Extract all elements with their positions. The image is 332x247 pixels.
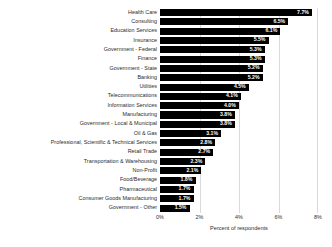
x-tick-label: 0% (156, 215, 164, 220)
bar-track: 6.5% (160, 18, 318, 25)
bar-value-label: 2.7% (198, 150, 210, 155)
category-label: Pharmaceutical (120, 187, 157, 192)
category-label: Health Care (128, 10, 157, 15)
bar-row: Government - State5.2% (0, 64, 332, 73)
category-label: Non-Profit (133, 168, 157, 173)
bar-value-label: 1.8% (181, 178, 193, 183)
bar-track: 3.1% (160, 130, 318, 137)
bar-track: 4.0% (160, 102, 318, 109)
category-label: Manufacturing (123, 112, 157, 117)
bar-value-label: 4.1% (226, 94, 238, 99)
bar-value-label: 6.5% (273, 19, 285, 24)
bar-value-label: 4.0% (224, 103, 236, 108)
bar-row: Information Services4.0% (0, 101, 332, 110)
category-label: Education Services (110, 29, 157, 34)
bar-value-label: 2.8% (200, 140, 212, 145)
bar-row: Telecommunications4.1% (0, 92, 332, 101)
bar-track: 4.5% (160, 84, 318, 91)
category-label: Government - State (110, 66, 157, 71)
bar-row: Health Care7.7% (0, 8, 332, 17)
bar-value-label: 1.5% (175, 206, 187, 211)
bar-rows: Health Care7.7%Consulting6.5%Education S… (0, 8, 332, 213)
bar-row: Consulting6.5% (0, 17, 332, 26)
bar-row: Government - Local & Municipal3.8% (0, 120, 332, 129)
category-label: Insurance (133, 38, 157, 43)
bar-track: 3.8% (160, 111, 318, 118)
bar-track: 1.7% (160, 186, 318, 193)
bar-track: 2.3% (160, 158, 318, 165)
bar-row: Finance5.3% (0, 55, 332, 64)
category-label: Utilities (139, 84, 157, 89)
category-label: Food/Beverage (120, 178, 157, 183)
bar-row: Government - Other1.5% (0, 204, 332, 213)
bar-value-label: 5.2% (248, 75, 260, 80)
bar-track: 5.5% (160, 37, 318, 44)
bar-value-label: 3.8% (220, 122, 232, 127)
category-label: Banking (137, 75, 157, 80)
bar-chart: Health Care7.7%Consulting6.5%Education S… (0, 0, 332, 247)
bar-track: 5.3% (160, 46, 318, 53)
bar-row: Government - Federal5.3% (0, 45, 332, 54)
x-axis: 0%2%4%6%8% (160, 213, 318, 225)
bar-track: 6.1% (160, 28, 318, 35)
bar-value-label: 2.1% (186, 168, 198, 173)
x-axis-title: Percent of respondents (160, 226, 318, 232)
category-label: Finance (138, 57, 157, 62)
bar-value-label: 3.8% (220, 112, 232, 117)
bar (160, 28, 280, 35)
x-tick-label: 8% (314, 215, 322, 220)
bar-row: Retail Trade2.7% (0, 148, 332, 157)
bar-row: Education Services6.1% (0, 27, 332, 36)
bar-value-label: 4.5% (234, 84, 246, 89)
bar-value-label: 5.3% (250, 47, 262, 52)
bar-row: Consumer Goods Manufacturing1.7% (0, 194, 332, 203)
bar-track: 2.8% (160, 139, 318, 146)
bar-value-label: 3.1% (206, 131, 218, 136)
category-label: Consumer Goods Manufacturing (79, 196, 157, 201)
bar-value-label: 5.3% (250, 57, 262, 62)
bar-row: Pharmaceutical1.7% (0, 185, 332, 194)
bar (160, 18, 288, 25)
bar-track: 5.2% (160, 65, 318, 72)
bar-track: 1.8% (160, 177, 318, 184)
bar-value-label: 1.7% (179, 196, 191, 201)
bar-row: Manufacturing3.8% (0, 110, 332, 119)
bar (160, 9, 312, 16)
bar-track: 1.7% (160, 195, 318, 202)
bar-track: 5.2% (160, 74, 318, 81)
bar-value-label: 6.1% (265, 29, 277, 34)
category-label: Transportation & Warehousing (84, 159, 157, 164)
bar-track: 4.1% (160, 93, 318, 100)
bar-row: Food/Beverage1.8% (0, 176, 332, 185)
bar-value-label: 5.5% (254, 38, 266, 43)
category-label: Oil & Gas (134, 131, 157, 136)
bar-value-label: 2.3% (190, 159, 202, 164)
bar-track: 2.1% (160, 167, 318, 174)
bar-row: Utilities4.5% (0, 83, 332, 92)
bar-row: Non-Profit2.1% (0, 166, 332, 175)
x-tick-label: 6% (275, 215, 283, 220)
x-tick-label: 2% (196, 215, 204, 220)
category-label: Government - Other (109, 206, 157, 211)
bar-track: 7.7% (160, 9, 318, 16)
category-label: Professional, Scientific & Technical Ser… (51, 140, 157, 145)
category-label: Retail Trade (128, 150, 157, 155)
bar-row: Insurance5.5% (0, 36, 332, 45)
bar-track: 5.3% (160, 56, 318, 63)
category-label: Government - Federal (104, 47, 157, 52)
bar-track: 1.5% (160, 205, 318, 212)
bar-track: 3.8% (160, 121, 318, 128)
bar-value-label: 7.7% (297, 10, 309, 15)
category-label: Government - Local & Municipal (80, 122, 157, 127)
bar-row: Banking5.2% (0, 73, 332, 82)
category-label: Consulting (131, 19, 157, 24)
bar (160, 37, 269, 44)
bar-track: 2.7% (160, 149, 318, 156)
bar-row: Oil & Gas3.1% (0, 129, 332, 138)
bar-row: Transportation & Warehousing2.3% (0, 157, 332, 166)
bar-value-label: 5.2% (248, 66, 260, 71)
category-label: Information Services (107, 103, 157, 108)
category-label: Telecommunications (108, 94, 157, 99)
bar-value-label: 1.7% (179, 187, 191, 192)
bar-row: Professional, Scientific & Technical Ser… (0, 138, 332, 147)
